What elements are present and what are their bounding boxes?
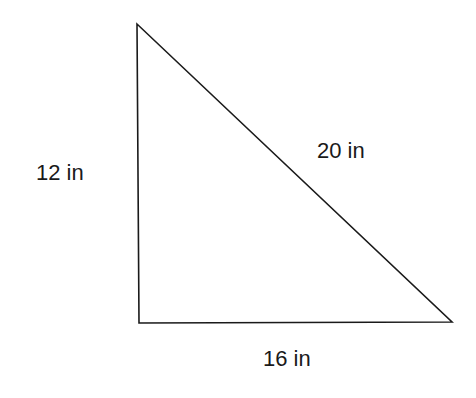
hypotenuse-label: 20 in [317, 138, 365, 163]
triangle-diagram: 12 in 20 in 16 in [0, 0, 476, 398]
bottom-side-label: 16 in [263, 346, 311, 371]
left-side-label: 12 in [36, 160, 84, 185]
right-triangle [137, 24, 452, 323]
